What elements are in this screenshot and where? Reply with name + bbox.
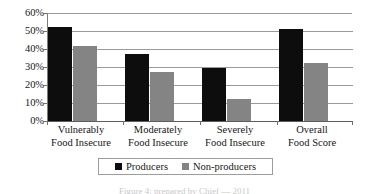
- non-producers-swatch-icon: [182, 163, 189, 170]
- x-axis-label-line1: Vulnerably: [42, 124, 120, 137]
- bar-producers-moderately: [125, 54, 149, 121]
- y-tick-label-60: 60%: [4, 8, 44, 18]
- x-axis-label-moderately-food-insecure: Moderately Food Insecure: [119, 124, 197, 149]
- bar-non-producers-severely: [227, 99, 251, 121]
- x-axis-label-line2: Food Insecure: [119, 137, 197, 150]
- y-tick-label-50: 50%: [4, 26, 44, 36]
- y-tick-label-40: 40%: [4, 44, 44, 54]
- x-axis-label-overall-food-score: Overall Food Score: [273, 124, 351, 149]
- x-axis-label-severely-food-insecure: Severely Food Insecure: [196, 124, 274, 149]
- bar-group-severely-food-insecure: [202, 13, 251, 121]
- y-tick-label-10: 10%: [4, 98, 44, 108]
- bar-producers-overall: [279, 29, 303, 121]
- bar-non-producers-overall: [304, 63, 328, 121]
- x-axis-label-line1: Moderately: [119, 124, 197, 137]
- bar-non-producers-vulnerably: [73, 46, 97, 121]
- legend-label-producers: Producers: [126, 161, 168, 172]
- producers-swatch-icon: [115, 163, 122, 170]
- bar-group-overall-food-score: [279, 13, 328, 121]
- x-axis-label-vulnerably-food-insecure: Vulnerably Food Insecure: [42, 124, 120, 149]
- chart-legend: Producers Non-producers: [98, 158, 273, 175]
- y-tick-label-20: 20%: [4, 80, 44, 90]
- bar-producers-vulnerably: [48, 27, 72, 122]
- bar-chart-figure: 60% 50% 40% 30% 20% 10% 0%: [0, 0, 369, 194]
- x-axis-label-line1: Severely: [196, 124, 274, 137]
- legend-entry-non-producers: Non-producers: [182, 161, 256, 172]
- bar-non-producers-moderately: [150, 72, 174, 122]
- legend-label-non-producers: Non-producers: [193, 161, 256, 172]
- plot-area: [47, 13, 352, 121]
- x-axis-label-line1: Overall: [273, 124, 351, 137]
- bar-group-moderately-food-insecure: [125, 13, 174, 121]
- x-axis-label-line2: Food Insecure: [196, 137, 274, 150]
- y-tick-label-0: 0%: [4, 116, 44, 126]
- figure-caption: Figure 4: prepared by Chief — 2011: [0, 186, 369, 194]
- legend-entry-producers: Producers: [115, 161, 168, 172]
- x-tick-4: [352, 121, 353, 125]
- y-axis: 60% 50% 40% 30% 20% 10% 0%: [0, 0, 44, 194]
- y-tick-label-30: 30%: [4, 62, 44, 72]
- bar-group-vulnerably-food-insecure: [48, 13, 97, 121]
- bar-producers-severely: [202, 68, 226, 121]
- x-axis-label-line2: Food Insecure: [42, 137, 120, 150]
- x-axis-label-line2: Food Score: [273, 137, 351, 150]
